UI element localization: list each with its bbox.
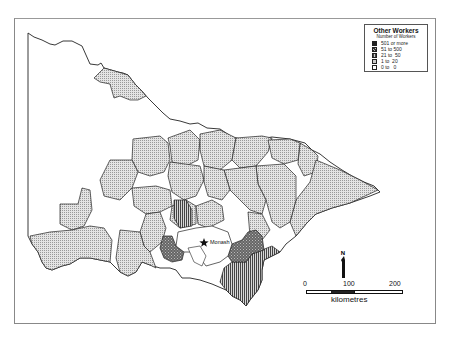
swatch-vertical-lines xyxy=(372,53,377,58)
scale-bar: 0 100 200 kilometres xyxy=(303,280,403,310)
legend-title: Other Workers xyxy=(368,27,424,34)
legend: Other Workers Number of Workers 501 or m… xyxy=(364,24,428,72)
swatch-solid-dark xyxy=(372,41,377,46)
swatch-white xyxy=(372,65,377,70)
scale-tick-200: 200 xyxy=(389,280,401,287)
swatch-light-dots xyxy=(372,59,377,64)
scale-bar-graphic xyxy=(306,290,403,294)
scale-unit: kilometres xyxy=(331,295,367,304)
scale-tick-0: 0 xyxy=(303,280,307,287)
swatch-crosshatch xyxy=(372,47,377,52)
scale-tick-100: 100 xyxy=(343,280,355,287)
north-arrow: N xyxy=(337,250,349,278)
legend-item: 0 to 0 xyxy=(368,64,424,70)
city-label-monash: Monash xyxy=(210,239,230,245)
